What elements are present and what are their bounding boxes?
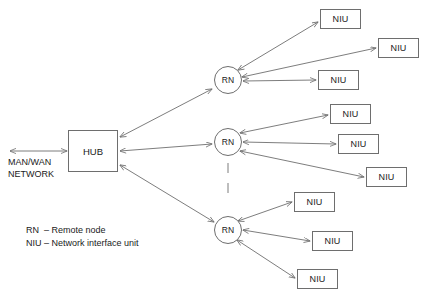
niu-bottom-1-label: NIU <box>306 197 322 207</box>
hub-rn-link-2 <box>120 144 212 151</box>
rn3-niu-link-1 <box>238 202 292 221</box>
remote-node-1[interactable]: RN <box>214 66 242 94</box>
niu-middle-1-label: NIU <box>342 109 358 119</box>
niu-top-1[interactable]: NIU <box>320 9 361 29</box>
niu-bottom-1[interactable]: NIU <box>294 192 335 212</box>
rn3-niu-link-3 <box>237 240 295 278</box>
rn3-niu-link-2 <box>243 230 310 241</box>
niu-middle-3[interactable]: NIU <box>366 167 407 187</box>
niu-bottom-2-label: NIU <box>324 236 340 246</box>
remote-node-1-label: RN <box>222 75 234 85</box>
hub-rn-link-1 <box>120 89 212 137</box>
niu-middle-2-label: NIU <box>350 139 366 149</box>
rn2-niu-link-2 <box>243 142 336 144</box>
remote-node-3[interactable]: RN <box>214 216 242 244</box>
niu-middle-1[interactable]: NIU <box>330 104 371 124</box>
niu-middle-2[interactable]: NIU <box>338 134 379 154</box>
network-diagram: MAN/WAN NETWORK HUB RN RN RN NIU NIU NIU… <box>0 0 428 302</box>
niu-bottom-3-label: NIU <box>309 274 325 284</box>
niu-top-1-label: NIU <box>332 14 348 24</box>
niu-top-2[interactable]: NIU <box>378 38 419 58</box>
hub-node[interactable]: HUB <box>68 130 118 172</box>
hub-label: HUB <box>83 146 103 157</box>
niu-bottom-2[interactable]: NIU <box>312 231 353 251</box>
niu-top-2-label: NIU <box>390 43 406 53</box>
niu-bottom-3[interactable]: NIU <box>297 269 338 289</box>
legend-line-rn: RN – Remote node <box>26 224 106 237</box>
niu-top-3-label: NIU <box>330 75 346 85</box>
remote-node-2[interactable]: RN <box>214 128 242 156</box>
niu-middle-3-label: NIU <box>378 172 394 182</box>
rn2-niu-link-3 <box>240 151 364 177</box>
remote-node-2-label: RN <box>222 137 234 147</box>
remote-node-3-label: RN <box>222 225 234 235</box>
rn2-niu-link-1 <box>240 115 328 133</box>
niu-top-3[interactable]: NIU <box>318 70 359 90</box>
wan-network-label: MAN/WAN NETWORK <box>8 156 54 180</box>
hub-rn-link-3 <box>120 165 214 222</box>
rn1-niu-link-3 <box>243 80 316 81</box>
legend-line-niu: NIU – Network interface unit <box>26 237 139 250</box>
